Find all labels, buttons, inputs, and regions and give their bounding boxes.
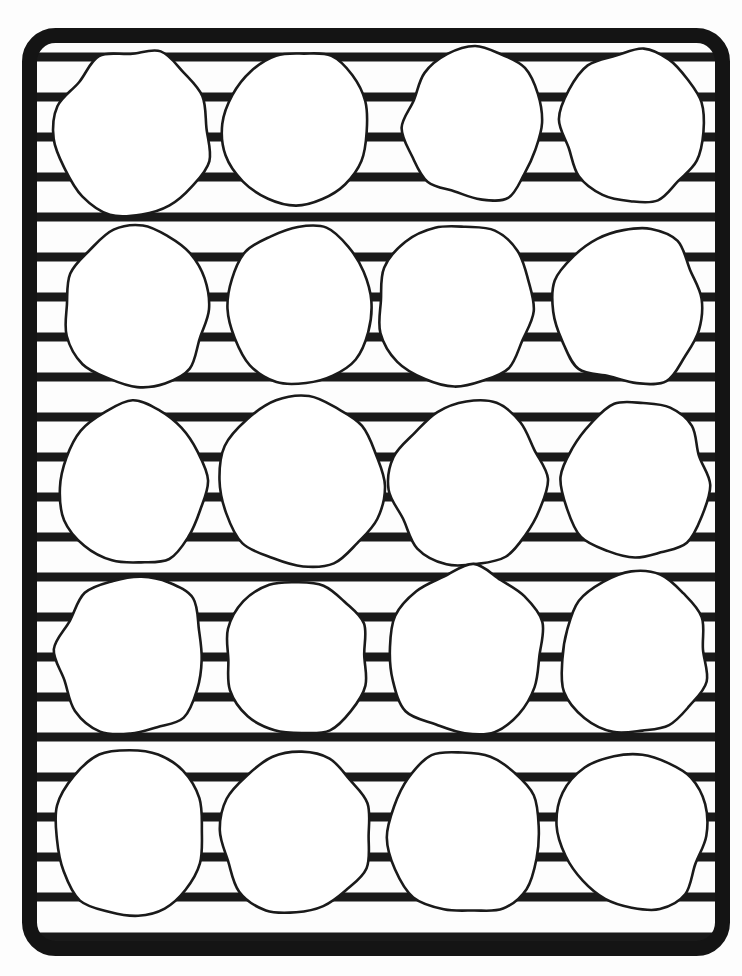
- illustration-canvas: Egg Rack Illustration Black and white li…: [0, 0, 742, 976]
- egg-rack-illustration: [0, 0, 742, 976]
- rack-stripe: [36, 933, 716, 942]
- rack-stripe: [36, 733, 716, 742]
- egg[interactable]: [225, 579, 369, 736]
